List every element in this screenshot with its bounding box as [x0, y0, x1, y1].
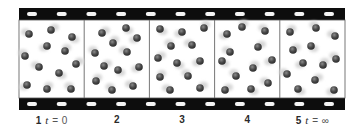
- molecule-icon: [247, 85, 255, 93]
- frame-number: 4: [244, 114, 250, 125]
- sprocket-hole: [176, 12, 186, 16]
- sprocket-hole: [86, 102, 96, 106]
- molecule-icon: [100, 62, 108, 70]
- sprocket-hole: [265, 102, 275, 106]
- sprocket-hole: [57, 12, 67, 16]
- molecule-icon: [21, 52, 29, 60]
- molecule-icon: [283, 70, 291, 78]
- frame-label-5: 5t = ∞: [296, 114, 329, 126]
- molecule-icon: [294, 85, 302, 93]
- molecule-icon: [35, 63, 43, 71]
- molecule-icon: [289, 46, 297, 54]
- sprocket-hole: [265, 12, 275, 16]
- time-variable: t: [45, 114, 48, 126]
- molecule-icon: [226, 48, 234, 56]
- frame-number: 5: [296, 115, 302, 126]
- molecule-icon: [123, 48, 131, 56]
- molecule-icon: [25, 30, 33, 38]
- frame-number: 3: [179, 114, 185, 125]
- sprocket-hole: [324, 12, 334, 16]
- sprocket-hole: [324, 102, 334, 106]
- time-variable: t: [305, 114, 308, 126]
- molecule-icon: [200, 24, 208, 32]
- sprocket-hole: [235, 12, 245, 16]
- frame-label-4: 4: [244, 114, 250, 125]
- molecule-icon: [154, 54, 162, 62]
- molecule-icon: [238, 23, 246, 31]
- molecule-icon: [188, 41, 196, 49]
- molecule-icon: [286, 28, 294, 36]
- frame-number: 2: [114, 114, 120, 125]
- molecule-icon: [122, 24, 130, 32]
- time-value: ∞: [322, 115, 329, 126]
- sprocket-hole: [27, 102, 37, 106]
- molecule-icon: [268, 56, 276, 64]
- molecule-icon: [156, 73, 164, 81]
- molecule-icon: [311, 76, 319, 84]
- sprocket-hole: [205, 12, 215, 16]
- molecule-icon: [43, 85, 51, 93]
- molecule-icon: [55, 69, 63, 77]
- molecule-icon: [332, 55, 340, 63]
- frame-number: 1: [36, 115, 42, 126]
- equals-sign: =: [49, 115, 60, 126]
- sprocket-hole: [294, 102, 304, 106]
- molecule-icon: [178, 28, 186, 36]
- molecule-icon: [92, 77, 100, 85]
- film-strip: [0, 0, 362, 131]
- sprocket-hole: [27, 12, 37, 16]
- molecule-icon: [223, 30, 231, 38]
- molecule-icon: [221, 86, 229, 94]
- molecule-icon: [319, 61, 327, 69]
- sprocket-hole: [146, 102, 156, 106]
- molecule-icon: [218, 57, 226, 65]
- sprocket-hole: [235, 102, 245, 106]
- sprocket-hole: [294, 12, 304, 16]
- frame-label-1: 1t = 0: [36, 114, 68, 126]
- molecule-icon: [196, 57, 204, 65]
- equals-sign: =: [309, 115, 320, 126]
- sprocket-hole: [57, 102, 67, 106]
- molecule-icon: [129, 82, 137, 90]
- sprocket-hole: [176, 102, 186, 106]
- molecule-icon: [261, 27, 269, 35]
- molecule-icon: [307, 42, 315, 50]
- molecule-icon: [330, 86, 338, 94]
- molecule-icon: [196, 84, 204, 92]
- frame-label-3: 3: [179, 114, 185, 125]
- molecule-icon: [249, 64, 257, 72]
- molecule-icon: [135, 63, 143, 71]
- molecule-icon: [312, 24, 320, 32]
- molecule-icon: [232, 72, 240, 80]
- molecule-icon: [91, 49, 99, 57]
- molecule-icon: [43, 42, 51, 50]
- molecule-icon: [166, 86, 174, 94]
- molecule-icon: [109, 39, 117, 47]
- molecule-icon: [254, 43, 262, 51]
- molecule-icon: [67, 85, 75, 93]
- sprocket-hole: [116, 102, 126, 106]
- molecule-icon: [264, 79, 272, 87]
- molecule-icon: [72, 60, 80, 68]
- molecule-icon: [114, 66, 122, 74]
- molecule-icon: [133, 34, 141, 42]
- molecule-icon: [23, 81, 31, 89]
- molecule-icon: [156, 25, 164, 33]
- sprocket-hole: [116, 12, 126, 16]
- molecule-icon: [108, 86, 116, 94]
- frame-label-2: 2: [114, 114, 120, 125]
- molecule-icon: [68, 33, 76, 41]
- molecule-icon: [184, 72, 192, 80]
- molecule-icon: [98, 29, 106, 37]
- sprocket-hole: [205, 102, 215, 106]
- time-value: 0: [62, 115, 68, 126]
- molecule-icon: [167, 42, 175, 50]
- sprocket-hole: [86, 12, 96, 16]
- molecule-icon: [331, 32, 339, 40]
- molecule-icon: [173, 59, 181, 67]
- molecule-icon: [61, 47, 69, 55]
- sprocket-hole: [146, 12, 156, 16]
- molecule-icon: [299, 59, 307, 67]
- molecule-icon: [47, 26, 55, 34]
